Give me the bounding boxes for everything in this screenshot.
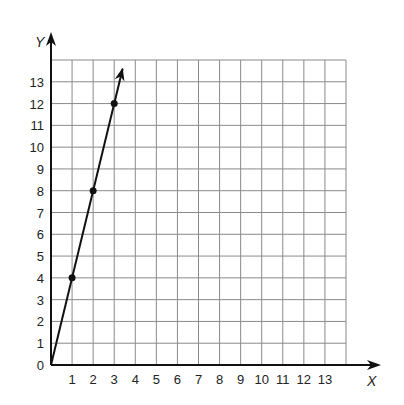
y-tick-label: 9 (37, 162, 44, 177)
y-axis-label: Y (35, 34, 46, 50)
data-point (69, 274, 76, 281)
x-tick-label: 10 (254, 372, 268, 387)
y-tick-label: 7 (37, 206, 44, 221)
y-tick-label: 12 (30, 97, 44, 112)
y-tick-label: 6 (37, 227, 44, 242)
x-tick-label: 2 (90, 372, 97, 387)
data-series (51, 68, 124, 365)
y-tick-label: 8 (37, 184, 44, 199)
grid-lines (51, 60, 346, 365)
y-tick-label: 10 (30, 140, 44, 155)
x-tick-label: 4 (132, 372, 139, 387)
x-axis-label: X (366, 373, 377, 389)
y-tick-label: 0 (37, 358, 44, 373)
data-point (111, 100, 118, 107)
x-tick-label: 12 (297, 372, 311, 387)
y-tick-label: 1 (37, 336, 44, 351)
x-tick-label: 13 (318, 372, 332, 387)
y-tick-label: 11 (31, 118, 45, 133)
x-tick-label: 5 (153, 372, 160, 387)
x-tick-label: 9 (237, 372, 244, 387)
x-tick-label: 7 (195, 372, 202, 387)
y-tick-label: 2 (37, 314, 44, 329)
coordinate-plane-chart: 12345678910111213012345678910111213 X Y (0, 0, 404, 405)
y-tick-label: 13 (30, 75, 44, 90)
y-tick-label: 5 (37, 249, 44, 264)
tick-labels: 12345678910111213012345678910111213 (30, 75, 333, 387)
y-tick-label: 3 (37, 293, 44, 308)
data-point (90, 187, 97, 194)
y-tick-label: 4 (37, 271, 44, 286)
x-tick-label: 11 (276, 372, 290, 387)
x-tick-label: 3 (111, 372, 118, 387)
x-tick-label: 8 (216, 372, 223, 387)
x-tick-label: 1 (68, 372, 75, 387)
axes (46, 32, 381, 370)
data-line (51, 69, 123, 365)
x-tick-label: 6 (174, 372, 181, 387)
